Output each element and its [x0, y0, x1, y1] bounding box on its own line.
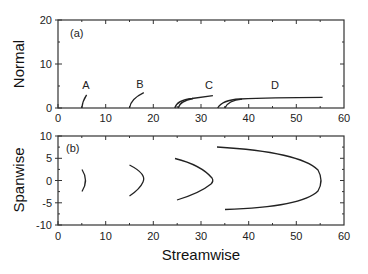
- panel-a-xtick: 30: [195, 112, 207, 124]
- curve-b-a: [82, 170, 86, 192]
- panel-a-frame: [58, 20, 344, 108]
- panel-b-ytick: 5: [46, 152, 52, 164]
- panel-b: 10 5 0 -5 -10 0 10 20 30 40 50 60 Spanwi…: [10, 130, 350, 263]
- panel-a-label: (a): [70, 27, 83, 39]
- curve-label-b: B: [136, 78, 143, 90]
- panel-b-xtick: 50: [290, 230, 302, 242]
- panel-a-x-ticks: [58, 20, 320, 108]
- curve-b-c: [175, 159, 213, 201]
- panel-b-y-ticks: [55, 136, 344, 225]
- panel-b-label: (b): [66, 142, 79, 154]
- curve-label-a: A: [82, 79, 90, 91]
- panel-b-xtick: 40: [243, 230, 255, 242]
- curve-label-d: D: [271, 79, 279, 91]
- panel-a-ytick-10: 10: [40, 58, 52, 70]
- curve-d-1: [218, 97, 323, 108]
- panel-b-xtick: 0: [55, 230, 61, 242]
- curve-c-1: [175, 96, 213, 108]
- curve-b-b: [130, 165, 144, 196]
- panel-b-ytick: 10: [40, 130, 52, 142]
- x-axis-title: Streamwise: [162, 246, 240, 263]
- panel-b-xtick: 30: [195, 230, 207, 242]
- curve-b-d: [217, 147, 321, 210]
- panel-a-ylabel: Normal: [10, 40, 27, 88]
- panel-a-xtick: 50: [290, 112, 302, 124]
- panel-a-xtick: 20: [147, 112, 159, 124]
- panel-b-ytick: 0: [46, 175, 52, 187]
- panel-b-xtick: 10: [100, 230, 112, 242]
- panel-b-x-ticks: [58, 136, 320, 225]
- panel-a: 20 10 0 0 10 20 30 40 50 60 Normal (a) A…: [10, 14, 350, 124]
- panel-b-ytick: -10: [36, 219, 52, 231]
- panel-a-ytick-0: 0: [46, 102, 52, 114]
- panel-b-frame: [58, 136, 344, 225]
- figure: 20 10 0 0 10 20 30 40 50 60 Normal (a) A…: [0, 0, 368, 274]
- panel-a-xtick: 60: [338, 112, 350, 124]
- curve-b: [130, 93, 144, 108]
- panel-b-xtick: 20: [147, 230, 159, 242]
- panel-a-xtick: 10: [100, 112, 112, 124]
- panel-a-y-ticks: [55, 20, 344, 108]
- panel-a-xtick: 40: [243, 112, 255, 124]
- panel-a-xtick: 0: [55, 112, 61, 124]
- curve-a: [82, 95, 87, 108]
- panel-b-ylabel: Spanwise: [10, 147, 27, 212]
- panel-b-xtick: 60: [338, 230, 350, 242]
- curve-label-c: C: [205, 79, 213, 91]
- panel-b-ytick: -5: [42, 197, 52, 209]
- panel-a-ytick-20: 20: [40, 14, 52, 26]
